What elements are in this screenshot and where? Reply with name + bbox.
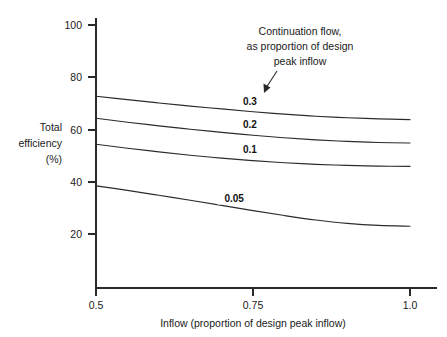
series-label-0.05-text: 0.05 <box>224 193 244 204</box>
x-tick-label-0.75: 0.75 <box>243 299 264 311</box>
y-tick-label-20: 20 <box>70 228 82 240</box>
x-axis-title: Inflow (proportion of design peak inflow… <box>160 317 346 329</box>
x-tick-label-1.0: 1.0 <box>403 299 418 311</box>
series-label-0.3-text: 0.3 <box>243 96 257 107</box>
chart-background <box>0 0 447 337</box>
efficiency-vs-inflow-chart: 100 80 60 40 20 0.5 0.75 1.0 Total effic… <box>0 0 447 337</box>
y-tick-label-80: 80 <box>70 71 82 83</box>
y-axis-title-line-3: (%) <box>46 153 62 165</box>
annotation-line-2: as proportion of design <box>247 40 354 52</box>
x-tick-label-0.5: 0.5 <box>89 299 104 311</box>
series-label-0.2: 0.2 <box>236 117 264 131</box>
annotation-line-1: Continuation flow, <box>259 25 342 37</box>
annotation-line-3: peak inflow <box>274 55 327 67</box>
y-axis-title-line-1: Total <box>40 121 62 133</box>
series-label-0.05: 0.05 <box>217 191 251 205</box>
series-label-0.1-text: 0.1 <box>243 144 257 155</box>
chart-figure: 100 80 60 40 20 0.5 0.75 1.0 Total effic… <box>0 0 447 337</box>
y-tick-label-60: 60 <box>70 124 82 136</box>
series-label-0.3: 0.3 <box>236 94 264 108</box>
y-tick-label-40: 40 <box>70 176 82 188</box>
y-axis-title-line-2: efficiency <box>18 137 62 149</box>
series-label-0.2-text: 0.2 <box>243 119 257 130</box>
series-label-0.1: 0.1 <box>236 142 264 156</box>
y-tick-label-100: 100 <box>64 19 82 31</box>
